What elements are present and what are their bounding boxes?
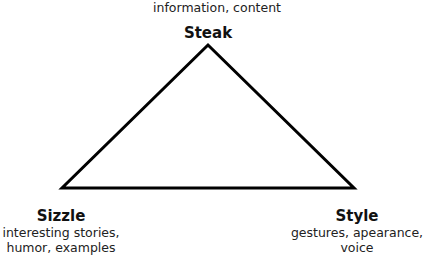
sizzle-description-line-1: interesting stories,	[0, 225, 122, 240]
sizzle-node: Sizzle interesting stories, humor, examp…	[0, 207, 122, 255]
steak-description: information, content	[150, 0, 284, 15]
style-description-line-2: voice	[276, 240, 434, 255]
style-node: Style gestures, apearance, voice	[276, 207, 434, 255]
style-title: Style	[276, 207, 434, 225]
steak-sizzle-style-diagram: information, content Steak Sizzle intere…	[0, 0, 434, 259]
steak-title: Steak	[160, 24, 256, 42]
sizzle-title: Sizzle	[0, 207, 122, 225]
style-description-line-1: gestures, apearance,	[276, 225, 434, 240]
sizzle-description-line-2: humor, examples	[0, 240, 122, 255]
